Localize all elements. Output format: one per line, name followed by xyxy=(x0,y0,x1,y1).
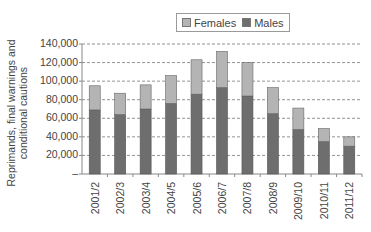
bar-females xyxy=(191,60,202,94)
y-tick-label: 100,000 xyxy=(36,74,78,86)
bar-males xyxy=(89,110,100,174)
y-tick-label: 120,000 xyxy=(36,56,78,68)
bar-females xyxy=(242,63,253,96)
bar-females xyxy=(166,76,177,104)
bar-females xyxy=(217,51,228,87)
y-axis-title: Reprimands, final warnings and condition… xyxy=(5,38,29,188)
x-tick-label: 2011/12 xyxy=(343,182,355,226)
x-tick-label: 2004/5 xyxy=(165,182,177,226)
legend-label-females: Females xyxy=(194,17,236,29)
bar-males xyxy=(166,103,177,174)
x-tick-label: 2002/3 xyxy=(114,182,126,226)
x-tick-label: 2010/11 xyxy=(318,182,330,226)
x-tick-label: 2005/6 xyxy=(191,182,203,226)
x-tick-label: 2007/8 xyxy=(241,182,253,226)
legend: Females Males xyxy=(176,13,290,32)
bar-males xyxy=(267,114,278,174)
bar-males xyxy=(344,146,355,174)
bar-females xyxy=(293,108,304,129)
bar-females xyxy=(89,86,100,110)
x-tick-label: 2001/2 xyxy=(89,182,101,226)
bar-males xyxy=(242,96,253,174)
bar-males xyxy=(115,115,126,174)
y-axis-title-line-2: conditional cautions xyxy=(17,38,29,188)
y-tick-label: 80,000 xyxy=(36,93,78,105)
x-tick-label: 2003/4 xyxy=(140,182,152,226)
x-tick-label: 2008/9 xyxy=(267,182,279,226)
males-swatch-icon xyxy=(242,18,251,27)
legend-item-females: Females xyxy=(182,17,236,29)
bar-females xyxy=(318,129,329,142)
x-tick-label: 2006/7 xyxy=(216,182,228,226)
legend-label-males: Males xyxy=(254,17,283,29)
females-swatch-icon xyxy=(182,18,191,27)
x-tick-label: 2009/10 xyxy=(292,182,304,226)
y-tick-label: – xyxy=(36,167,78,179)
bar-males xyxy=(318,142,329,175)
bar-females xyxy=(115,93,126,114)
y-tick-label: 60,000 xyxy=(36,111,78,123)
bar-males xyxy=(191,94,202,174)
y-tick-label: 20,000 xyxy=(36,148,78,160)
bar-females xyxy=(140,85,151,109)
y-axis-title-line-1: Reprimands, final warnings and xyxy=(5,38,17,188)
bar-males xyxy=(217,88,228,174)
bar-males xyxy=(140,109,151,174)
bar-females xyxy=(267,88,278,114)
y-tick-label: 140,000 xyxy=(36,37,78,49)
y-tick-label: 40,000 xyxy=(36,130,78,142)
bar-males xyxy=(293,129,304,174)
legend-item-males: Males xyxy=(242,17,283,29)
bar-females xyxy=(344,137,355,146)
